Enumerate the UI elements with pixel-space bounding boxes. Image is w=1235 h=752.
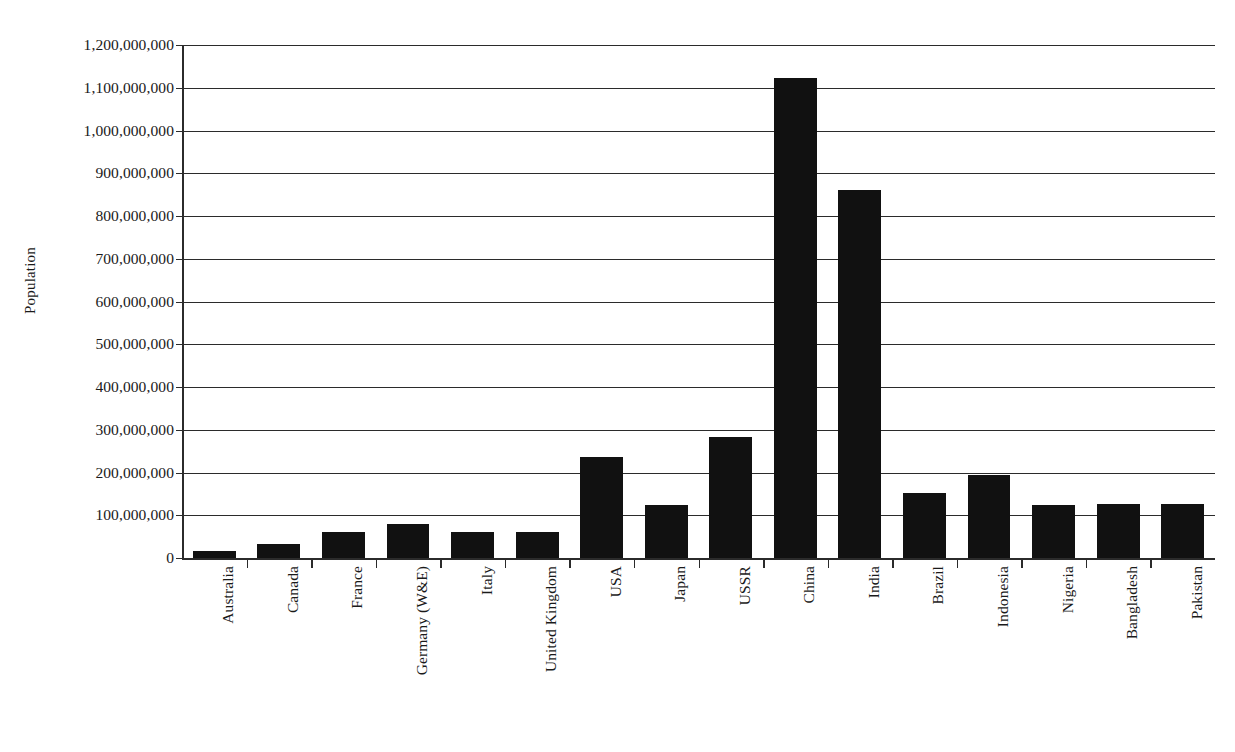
x-axis-category-label: USA: [608, 566, 624, 597]
bar[interactable]: [193, 551, 236, 558]
population-bar-chart: Population 0100,000,000200,000,000300,00…: [0, 0, 1235, 752]
y-axis-tick-label: 1,200,000,000: [84, 36, 174, 54]
x-axis-category-label: Japan: [672, 566, 688, 602]
x-axis-category-label: United Kingdom: [543, 566, 559, 672]
bar[interactable]: [709, 437, 752, 558]
x-axis-category-label: Canada: [285, 566, 301, 613]
bar[interactable]: [387, 524, 430, 558]
x-axis-category-label: China: [801, 566, 817, 604]
bar[interactable]: [1161, 504, 1204, 558]
x-axis-category-label: France: [349, 566, 365, 609]
y-axis-tick-label: 900,000,000: [95, 164, 174, 182]
bar[interactable]: [838, 190, 881, 558]
bar[interactable]: [903, 493, 946, 558]
x-axis-category-label: Bangladesh: [1124, 566, 1140, 639]
y-axis-tick-labels: 0100,000,000200,000,000300,000,000400,00…: [58, 45, 174, 558]
y-axis-tick-label: 600,000,000: [95, 293, 174, 311]
y-axis-tick-label: 1,000,000,000: [84, 122, 174, 140]
y-axis-tick-label: 0: [166, 549, 174, 567]
bar[interactable]: [1097, 504, 1140, 558]
plot-area: [182, 45, 1215, 558]
bar[interactable]: [774, 78, 817, 558]
x-axis-category-label: India: [866, 566, 882, 598]
y-axis-tick-label: 800,000,000: [95, 207, 174, 225]
x-axis-category-label: Nigeria: [1060, 566, 1076, 613]
bar[interactable]: [580, 457, 623, 558]
y-axis-tick-label: 700,000,000: [95, 250, 174, 268]
bar[interactable]: [257, 544, 300, 558]
x-axis-category-label: Pakistan: [1189, 566, 1205, 619]
x-axis-category-label: Italy: [479, 566, 495, 595]
x-axis-category-label: Germany (W&E): [414, 566, 430, 675]
x-axis-category-labels: AustraliaCanadaFranceGermany (W&E)ItalyU…: [182, 566, 1215, 752]
y-axis-title: Population: [0, 0, 60, 560]
bar[interactable]: [645, 505, 688, 558]
y-axis-tick-label: 200,000,000: [95, 464, 174, 482]
y-axis-tick-label: 500,000,000: [95, 335, 174, 353]
x-axis-category-label: Brazil: [930, 566, 946, 604]
y-axis-spine: [182, 45, 184, 559]
bar[interactable]: [1032, 505, 1075, 558]
bar[interactable]: [451, 532, 494, 559]
x-axis-category-label: Indonesia: [995, 566, 1011, 627]
x-axis-category-label: USSR: [737, 566, 753, 605]
bars-group: [182, 45, 1215, 558]
y-axis-tick-label: 400,000,000: [95, 378, 174, 396]
x-axis-category-label: Australia: [220, 566, 236, 624]
y-axis-tick-label: 100,000,000: [95, 506, 174, 524]
y-axis-tick-label: 1,100,000,000: [84, 79, 174, 97]
bar[interactable]: [968, 475, 1011, 558]
bar[interactable]: [516, 532, 559, 559]
bar[interactable]: [322, 532, 365, 558]
y-axis-title-label: Population: [22, 246, 39, 313]
y-axis-tick-label: 300,000,000: [95, 421, 174, 439]
